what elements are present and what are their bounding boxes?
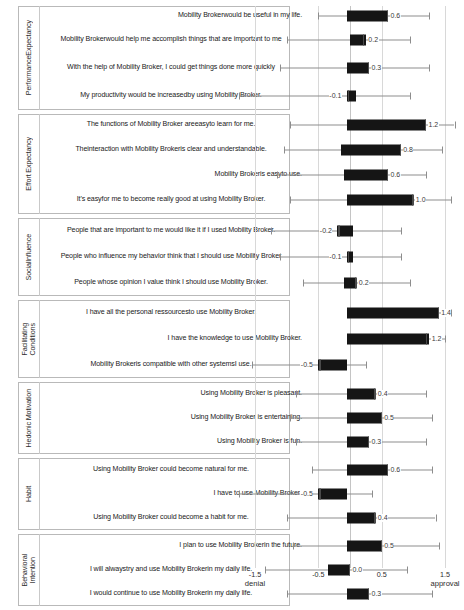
box (347, 63, 369, 74)
whisker-cap-low (239, 93, 240, 100)
median-value-label: 1.2 (428, 121, 439, 129)
whisker-cap-low (280, 254, 281, 261)
box (347, 308, 439, 319)
box (347, 413, 382, 424)
median-tick (368, 63, 369, 74)
median-tick (348, 91, 349, 102)
median-tick (368, 437, 369, 448)
whisker-cap-low (312, 467, 313, 474)
median-value-label: 0.5 (384, 414, 395, 422)
whisker-cap-high (442, 147, 443, 154)
whisker-line (239, 96, 410, 97)
whisker-cap-low (293, 543, 294, 550)
whisker-cap-high (436, 515, 437, 522)
box (347, 465, 388, 476)
whisker-cap-high (372, 491, 373, 498)
median-tick (374, 513, 375, 524)
boxplot-item: 0.8 (236, 136, 464, 164)
median-tick (374, 389, 375, 400)
boxplot-item: 0.6 (236, 164, 464, 186)
box (347, 120, 426, 131)
boxplot-item: 0.5 (236, 534, 464, 558)
whisker-line (287, 40, 411, 41)
boxplot-item: -0.5 (236, 482, 464, 506)
whisker-cap-high (401, 254, 402, 261)
boxplot-item: -0.1 (236, 244, 464, 270)
whisker-cap-high (426, 172, 427, 179)
whisker-cap-high (455, 122, 456, 129)
whisker-cap-high (426, 391, 427, 398)
boxplot-item: -0.1 (236, 82, 464, 110)
boxplot-item: 0.3 (236, 430, 464, 454)
median-tick (338, 226, 339, 237)
box (347, 389, 376, 400)
median-value-label: 0.5 (384, 542, 395, 550)
median-tick (363, 35, 364, 46)
median-value-label: 0.4 (377, 390, 388, 398)
whisker-cap-high (432, 467, 433, 474)
box (347, 513, 376, 524)
median-tick (348, 252, 349, 263)
median-tick (319, 489, 320, 500)
median-value-label: 0.4 (377, 514, 388, 522)
axis-tick-label: -0.5 (312, 570, 324, 579)
whisker-cap-low (287, 515, 288, 522)
axis-tick-label: -1.5 (249, 570, 261, 579)
median-value-label: 1.2 (431, 335, 442, 343)
median-value-label: 0.6 (390, 171, 401, 179)
whisker-cap-low (296, 391, 297, 398)
median-value-label: -0.5 (300, 490, 313, 498)
boxplot-item: 0.4 (236, 506, 464, 530)
box (341, 145, 401, 156)
whisker-cap-high (429, 13, 430, 20)
whisker-cap-low (239, 491, 240, 498)
plot-area: 0.60.20.3-0.11.20.80.61.0-0.2-0.10.21.41… (236, 6, 464, 568)
whisker-cap-high (429, 65, 430, 72)
box (347, 195, 414, 206)
median-tick (381, 541, 382, 552)
whisker-cap-low (271, 228, 272, 235)
median-value-label: -0.1 (329, 253, 342, 261)
median-tick (381, 413, 382, 424)
boxplot-item: -0.5 (236, 352, 464, 378)
boxplot-item: 0.6 (236, 6, 464, 26)
whisker-cap-low (290, 122, 291, 129)
median-tick (412, 195, 413, 206)
median-value-label: 0.8 (403, 146, 414, 154)
whisker-cap-high (426, 439, 427, 446)
median-tick (400, 145, 401, 156)
box (347, 437, 369, 448)
median-value-label: 0.3 (371, 438, 382, 446)
median-value-label: 0.2 (358, 279, 369, 287)
median-tick (425, 120, 426, 131)
boxplot-item: 0.5 (236, 406, 464, 430)
boxplot-item: 1.0 (236, 186, 464, 214)
box (347, 334, 429, 345)
whisker-cap-high (366, 362, 367, 369)
median-tick (319, 360, 320, 371)
whisker-cap-high (439, 543, 440, 550)
boxplot-item: 1.2 (236, 114, 464, 136)
whisker-cap-high (432, 415, 433, 422)
whisker-cap-low (290, 415, 291, 422)
median-value-label: 0.3 (371, 64, 382, 72)
boxplot-item: 0.4 (236, 382, 464, 406)
median-tick (387, 11, 388, 22)
median-tick (355, 278, 356, 289)
boxplot-chart: PerformanceExpectancyMobility Brokerwoul… (0, 0, 464, 610)
axis-anchor-label: denial (245, 579, 265, 588)
whisker-cap-low (252, 362, 253, 369)
x-axis: -1.5-0.50.51.5denialapproval (236, 568, 464, 608)
boxplot-item: 0.2 (236, 270, 464, 296)
boxplot-item: 0.2 (236, 26, 464, 54)
median-tick (426, 334, 427, 345)
whisker-cap-low (284, 147, 285, 154)
box (318, 489, 347, 500)
median-tick (387, 465, 388, 476)
whisker-cap-high (410, 93, 411, 100)
median-value-label: -0.5 (300, 361, 313, 369)
boxplot-item: 0.3 (236, 54, 464, 82)
whisker-cap-low (287, 37, 288, 44)
median-value-label: 0.6 (390, 466, 401, 474)
median-value-label: 0.6 (390, 12, 401, 20)
